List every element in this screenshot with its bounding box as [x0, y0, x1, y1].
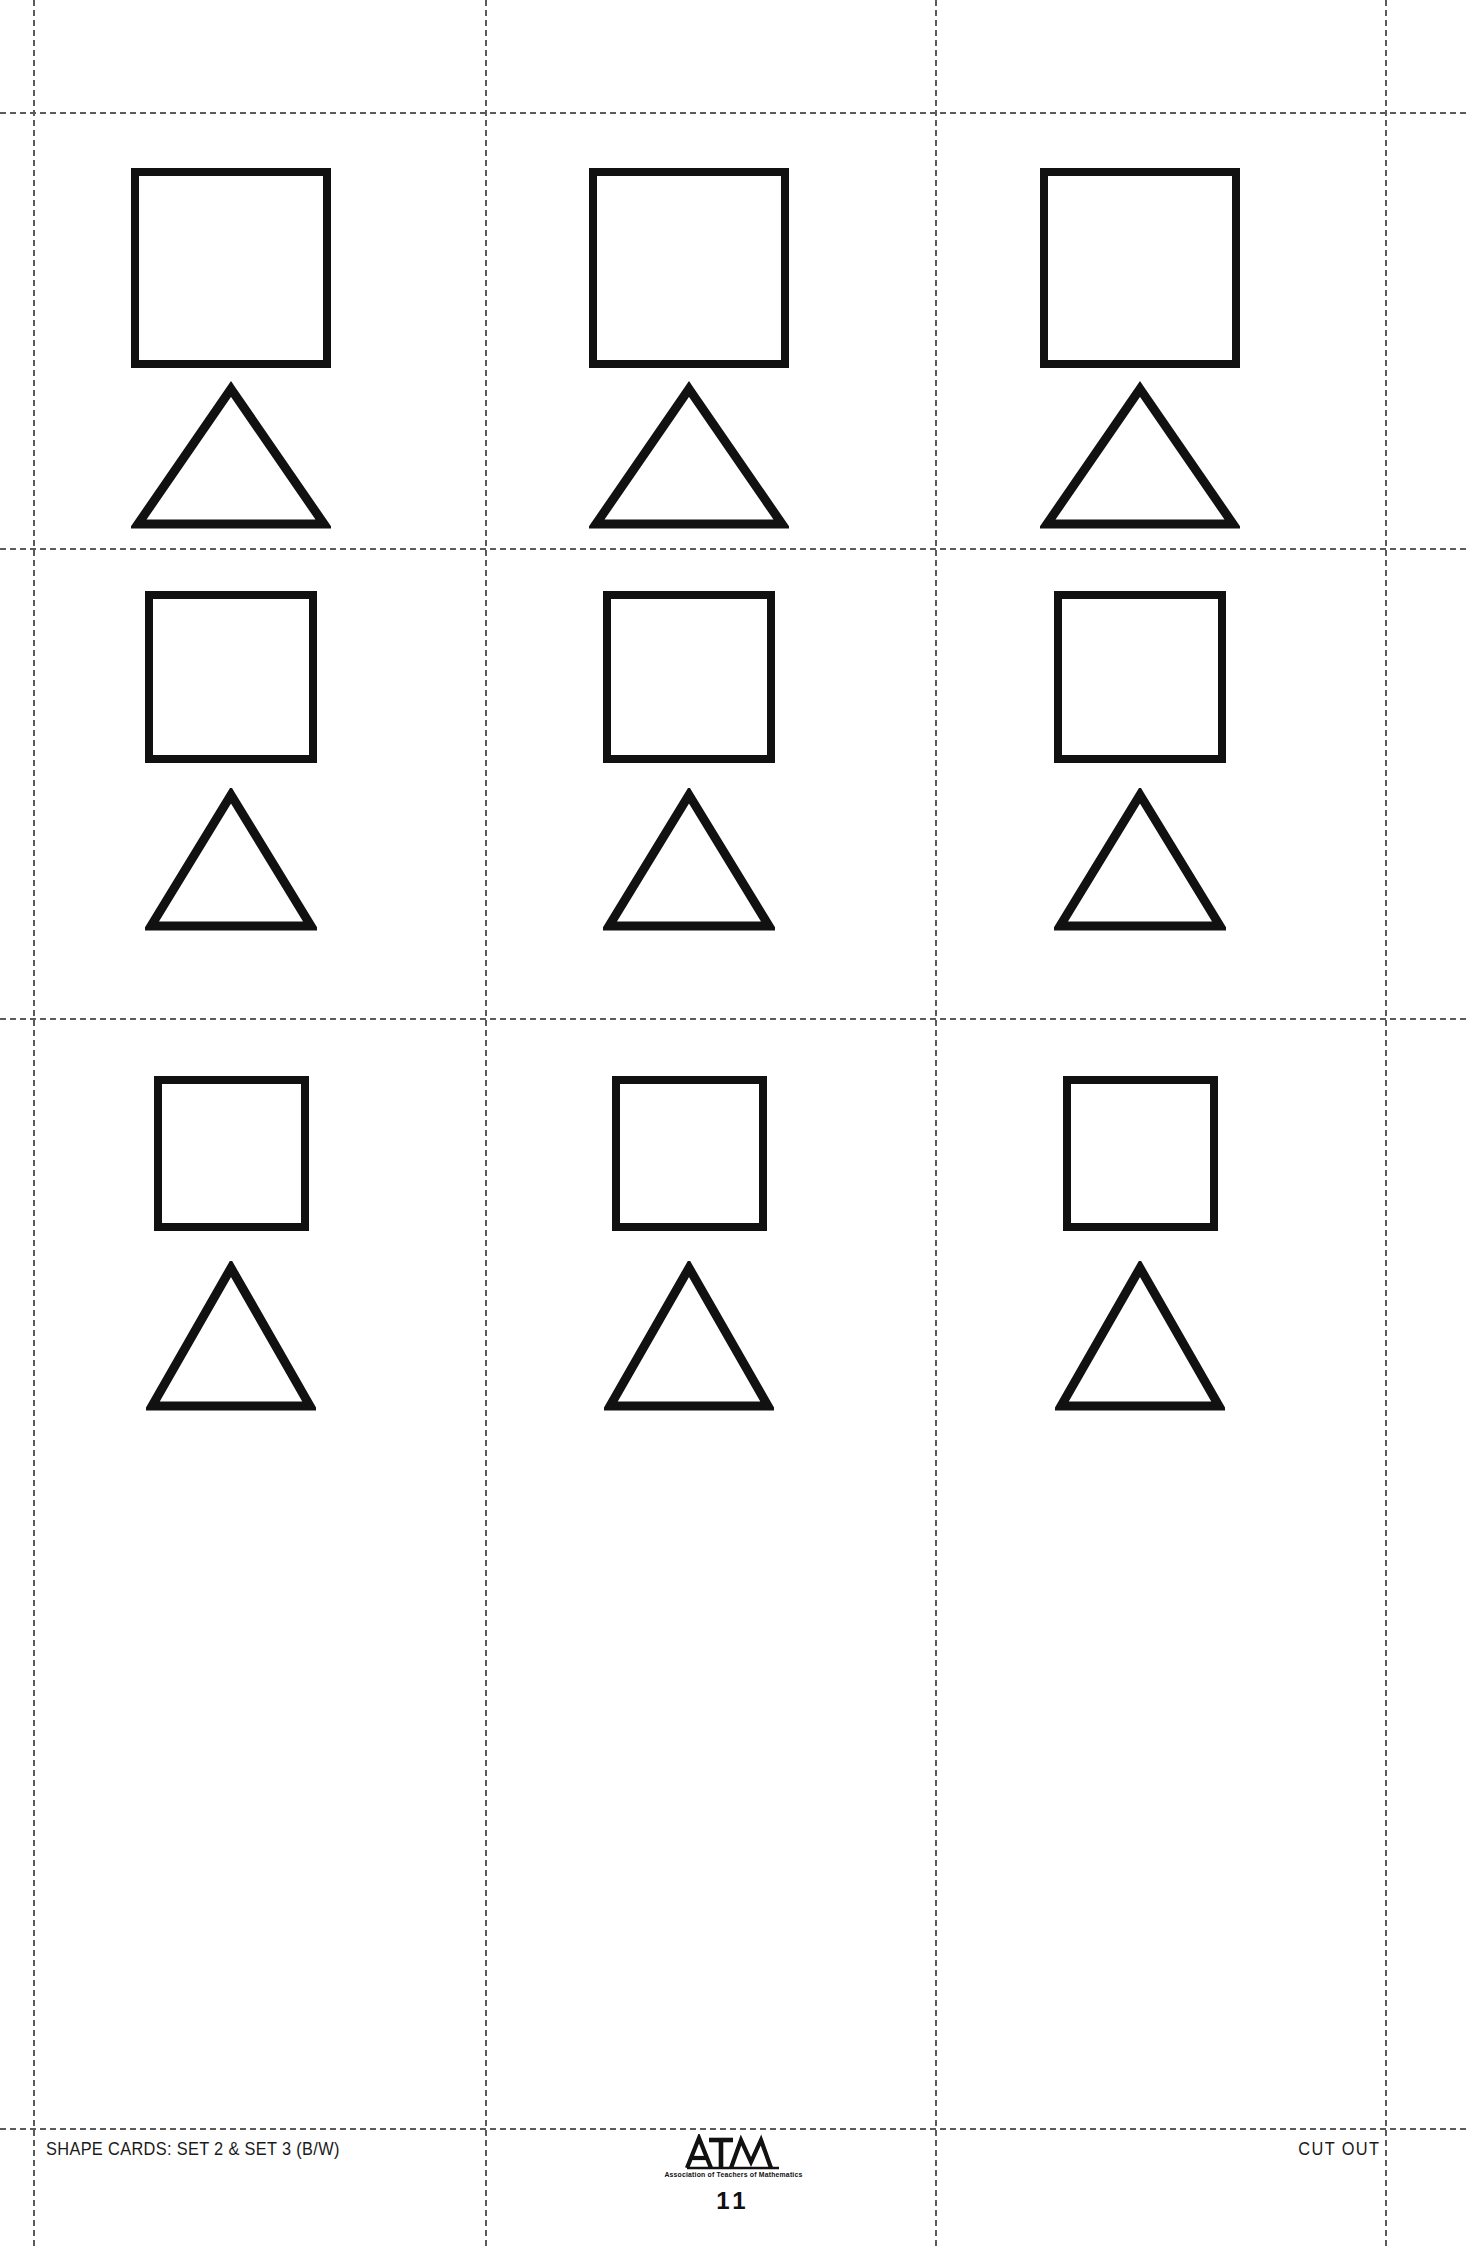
page-footer: SHAPE CARDS: SET 2 & SET 3 (B/W) Associa…: [0, 2128, 1466, 2246]
square-shape: [1054, 591, 1226, 763]
shape-card[interactable]: [33, 548, 485, 1018]
square-shape: [1063, 1076, 1218, 1231]
square-shape: [154, 1076, 309, 1231]
triangle-shape: [604, 1261, 774, 1413]
cut-line-vertical-right: [1385, 0, 1387, 2246]
shape-card[interactable]: [485, 1018, 935, 2128]
shape-card-grid: [33, 112, 1385, 2128]
square-shape: [589, 168, 789, 368]
shape-cards-page: SHAPE CARDS: SET 2 & SET 3 (B/W) Associa…: [0, 0, 1466, 2246]
page-number: 11: [716, 2187, 749, 2215]
shape-card[interactable]: [935, 112, 1385, 548]
square-shape: [131, 168, 331, 368]
triangle-shape: [1055, 1261, 1225, 1413]
triangle-shape: [146, 1261, 316, 1413]
triangle-shape: [589, 381, 789, 531]
triangle-shape: [603, 788, 775, 933]
shape-card[interactable]: [33, 112, 485, 548]
square-shape: [612, 1076, 767, 1231]
shape-card[interactable]: [935, 1018, 1385, 2128]
atm-logo: Association of Teachers of Mathematics 1…: [0, 2134, 1466, 2215]
shape-card[interactable]: [485, 112, 935, 548]
atm-wordmark-icon: [685, 2134, 781, 2170]
square-shape: [145, 591, 317, 763]
square-shape: [603, 591, 775, 763]
triangle-shape: [131, 381, 331, 531]
triangle-shape: [145, 788, 317, 933]
triangle-shape: [1054, 788, 1226, 933]
cut-out-label: CUT OUT: [1298, 2138, 1380, 2160]
triangle-shape: [1040, 381, 1240, 531]
shape-card[interactable]: [935, 548, 1385, 1018]
shape-card[interactable]: [485, 548, 935, 1018]
square-shape: [1040, 168, 1240, 368]
shape-card[interactable]: [33, 1018, 485, 2128]
atm-logo-tagline: Association of Teachers of Mathematics: [664, 2171, 802, 2178]
